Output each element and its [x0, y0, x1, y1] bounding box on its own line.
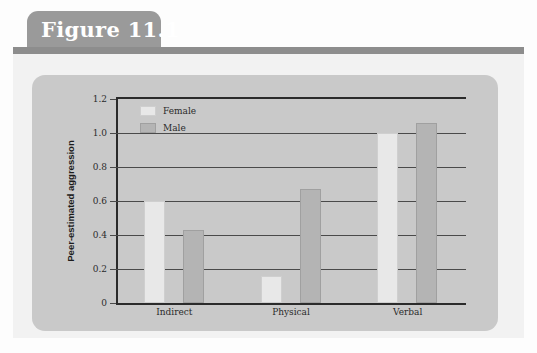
y-axis-tick-label: 0.2 [93, 264, 107, 274]
x-axis-label-verbal: Verbal [393, 307, 422, 317]
gridline [116, 235, 466, 236]
y-axis-tick [110, 99, 116, 100]
legend-label-female: Female [163, 106, 196, 116]
figure-root: Figure 11.1 Peer-estimated aggression 00… [0, 0, 537, 353]
x-axis-label-physical: Physical [272, 307, 310, 317]
y-axis-tick-label: 0.6 [93, 196, 107, 206]
bar-verbal-female [377, 133, 398, 303]
chart-card: Peer-estimated aggression 00.20.40.60.81… [32, 75, 498, 331]
bar-verbal-male [416, 123, 437, 303]
plot-top-border [116, 97, 466, 99]
legend-item-male: Male [140, 120, 196, 135]
chart-plot-area: Peer-estimated aggression 00.20.40.60.81… [116, 97, 466, 305]
bar-physical-male [300, 189, 321, 303]
figure-title-label: Figure 11.1 [41, 17, 180, 42]
bar-indirect-male [183, 230, 204, 303]
y-axis-tick-label: 0.8 [93, 162, 107, 172]
x-axis-label-indirect: Indirect [156, 307, 192, 317]
x-axis-line [116, 303, 466, 305]
bar-indirect-female [144, 201, 165, 303]
legend-item-female: Female [140, 103, 196, 118]
y-axis-tick [110, 235, 116, 236]
gridline [116, 269, 466, 270]
y-axis-tick-label: 1.2 [93, 94, 107, 104]
y-axis-tick [110, 133, 116, 134]
legend-label-male: Male [163, 123, 186, 133]
gridline [116, 167, 466, 168]
legend-swatch-male-icon [140, 123, 156, 133]
y-axis-tick-label: 1.0 [93, 128, 107, 138]
figure-title-tab: Figure 11.1 [27, 11, 161, 48]
y-axis-title: Peer-estimated aggression [65, 140, 76, 261]
y-axis-tick [110, 167, 116, 168]
y-axis-tick [110, 269, 116, 270]
y-axis-tick [110, 303, 116, 304]
y-axis-tick-label: 0.4 [93, 230, 107, 240]
legend-swatch-female-icon [140, 106, 156, 116]
chart-legend: Female Male [140, 103, 196, 137]
bar-physical-female [261, 276, 282, 303]
y-axis-tick-label: 0 [101, 298, 107, 308]
y-axis-tick [110, 201, 116, 202]
gridline [116, 201, 466, 202]
figure-title-rule [13, 47, 524, 54]
